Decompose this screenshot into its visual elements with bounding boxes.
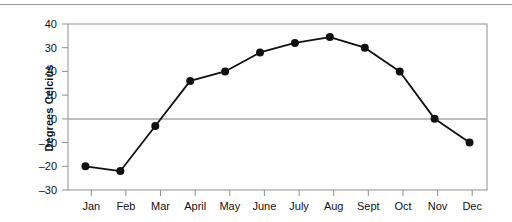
plot-area-border (68, 24, 487, 190)
y-tick-label: 30 (45, 42, 57, 54)
x-tick-label: Mar (151, 200, 170, 212)
data-point (291, 39, 299, 47)
y-tick-label: 20 (45, 65, 57, 77)
y-tick-label: 10 (45, 89, 57, 101)
x-tick-label: Feb (116, 200, 135, 212)
x-tick-label: April (184, 200, 206, 212)
data-point (186, 77, 194, 85)
x-tick-label: Jan (82, 200, 100, 212)
data-point (256, 48, 264, 56)
data-point (81, 162, 89, 170)
data-point (221, 67, 229, 75)
data-point (151, 122, 159, 130)
y-axis-ticks: 40 30 20 10 0 –10 –20 –30 (39, 18, 68, 196)
y-tick-label: 0 (51, 113, 57, 125)
data-point (431, 115, 439, 123)
x-tick-label: Dec (462, 200, 482, 212)
y-tick-label: –10 (39, 137, 57, 149)
y-tick-label: –30 (39, 184, 57, 196)
x-tick-label: Oct (394, 200, 411, 212)
x-tick-label: Aug (324, 200, 344, 212)
data-point-markers (81, 33, 473, 175)
data-point (396, 67, 404, 75)
data-point (466, 139, 474, 147)
x-tick-label: June (252, 200, 276, 212)
x-tick-label: Nov (428, 200, 448, 212)
data-line (85, 37, 469, 171)
data-point (326, 33, 334, 41)
y-tick-label: –20 (39, 160, 57, 172)
data-point (116, 167, 124, 175)
data-point (361, 44, 369, 52)
x-tick-label: May (219, 200, 240, 212)
x-tick-label: July (289, 200, 309, 212)
line-chart: 40 30 20 10 0 –10 –20 –30 Jan Feb Mar (0, 0, 512, 222)
x-tick-label: Sept (357, 200, 380, 212)
x-axis-ticks: Jan Feb Mar April May June July Aug Sept… (82, 190, 482, 212)
chart-page: Degrees Celcius 40 30 20 10 0 –10 –20 –3… (0, 0, 512, 222)
y-tick-label: 40 (45, 18, 57, 30)
